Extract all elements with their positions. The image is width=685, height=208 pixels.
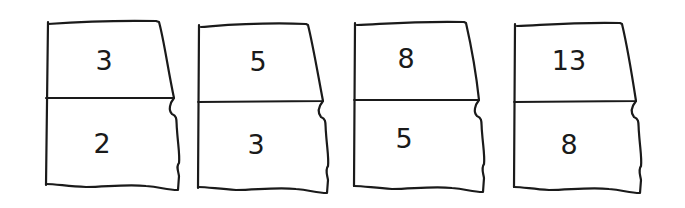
bottom-label: 3 — [247, 129, 264, 160]
top-label: 13 — [552, 45, 586, 76]
north-dakota-outline — [354, 22, 479, 186]
bottom-label: 5 — [395, 123, 412, 154]
top-label: 3 — [95, 45, 112, 76]
dakotas-diagram: 3 2 5 3 8 5 13 8 — [0, 0, 685, 208]
bottom-label: 8 — [560, 129, 577, 160]
south-dakota-outline — [46, 98, 179, 190]
panel-3: 8 5 — [354, 22, 484, 192]
south-dakota-outline — [354, 100, 484, 192]
panel-4: 13 8 — [514, 23, 641, 193]
top-label: 5 — [249, 46, 266, 77]
south-dakota-outline — [514, 101, 641, 193]
panel-2: 5 3 — [198, 23, 328, 193]
top-label: 8 — [397, 43, 414, 74]
bottom-label: 2 — [93, 128, 110, 159]
panel-1: 3 2 — [46, 21, 179, 190]
